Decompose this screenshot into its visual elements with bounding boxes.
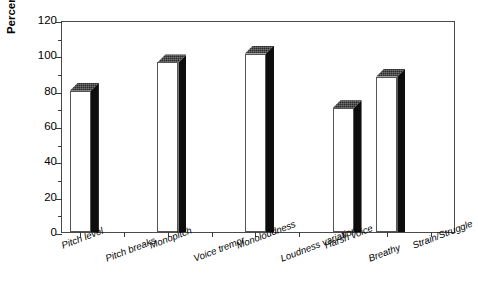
y-tick-major: [55, 128, 62, 129]
x-tick: [299, 232, 300, 237]
y-tick-minor: [58, 110, 63, 111]
y-tick-major: [55, 199, 62, 200]
y-tick-minor: [58, 216, 63, 217]
x-tick: [168, 232, 169, 237]
y-tick-major: [55, 163, 62, 164]
bar-front-face: [157, 62, 178, 232]
bar: [376, 69, 405, 232]
bar-front-face: [333, 108, 354, 232]
bar-side-face: [354, 100, 362, 232]
bar-side-face: [397, 69, 405, 232]
bar-side-face: [178, 54, 186, 232]
y-tick-label: 120: [31, 15, 57, 26]
x-tick-label: Breathy: [367, 242, 402, 265]
y-tick-major: [55, 22, 62, 23]
bar-side-face: [266, 46, 274, 232]
bar: [70, 83, 99, 232]
y-tick-minor: [58, 75, 63, 76]
y-tick-label: 100: [31, 50, 57, 61]
x-tick: [387, 232, 388, 237]
y-axis-tick-labels: 020406080100120: [27, 21, 57, 233]
x-tick: [80, 232, 81, 237]
x-tick: [124, 232, 125, 237]
bar: [157, 54, 186, 232]
y-tick-label: 0: [31, 227, 57, 238]
y-axis-title: Percent of Patients: [2, 0, 20, 62]
y-tick-major: [55, 57, 62, 58]
y-tick-minor: [58, 181, 63, 182]
y-tick-major: [55, 234, 62, 235]
plot-area: [61, 21, 455, 233]
bar-side-face: [91, 83, 99, 232]
bar-front-face: [376, 77, 397, 232]
bar: [245, 46, 274, 232]
bar-front-face: [70, 91, 91, 232]
x-tick-label: Pitch breaks: [104, 234, 158, 264]
bar-front-face: [245, 54, 266, 232]
x-tick: [343, 232, 344, 237]
y-tick-minor: [58, 146, 63, 147]
bar-chart: Percent of Patients 020406080100120 Pitc…: [0, 0, 478, 300]
y-tick-label: 40: [31, 156, 57, 167]
x-tick: [255, 232, 256, 237]
y-tick-label: 20: [31, 192, 57, 203]
x-tick: [212, 232, 213, 237]
x-tick: [431, 232, 432, 237]
y-tick-minor: [58, 40, 63, 41]
y-tick-label: 60: [31, 121, 57, 132]
bar: [333, 100, 362, 232]
y-tick-major: [55, 93, 62, 94]
y-tick-label: 80: [31, 86, 57, 97]
x-tick-label: Voice tremor: [192, 234, 247, 265]
